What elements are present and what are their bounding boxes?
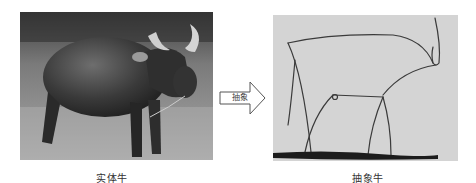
arrow-label: 抽象 [232,91,248,102]
abstract-bull-drawing [273,15,458,161]
buffalo-image [20,12,213,160]
caption-abstract-bull: 抽象牛 [352,170,384,183]
bull-line-art [273,15,458,161]
caption-real-bull: 实体牛 [96,170,128,183]
buffalo-photo [20,12,213,160]
